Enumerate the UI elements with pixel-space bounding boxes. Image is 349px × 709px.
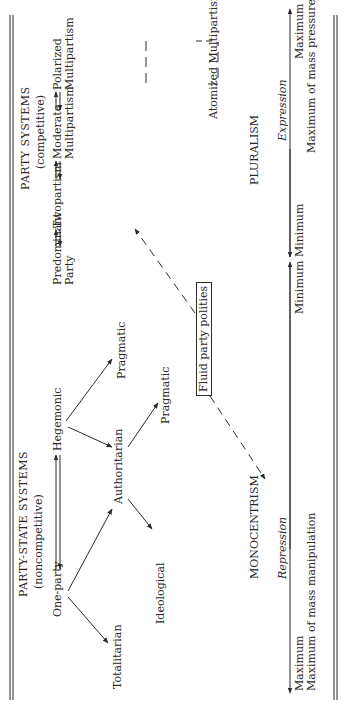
party-state-systems-heading: PARTY-STATE SYSTEMS [18, 451, 30, 597]
node-hegemonic: Hegemonic [52, 388, 64, 451]
node-totalitarian: Totalitarian [112, 624, 124, 689]
node-atomized-multipartism: Atomized Multipartism [208, 0, 220, 119]
scale-repression-min: Minimum [294, 261, 306, 314]
node-ideological: Ideological [155, 563, 167, 624]
noncompetitive-subheading: (noncompetitive) [33, 494, 45, 589]
scale-repression-max-detail: Maximum of mass manipulation [306, 513, 318, 691]
competitive-subheading: (competitive) [35, 95, 47, 169]
party-systems-heading: PARTY SYSTEMS [20, 86, 32, 190]
party-systems-diagram: PARTY-STATE SYSTEMS (noncompetitive) PAR… [0, 0, 349, 709]
node-fluid-party-polities: Fluid party polities [196, 282, 212, 396]
region-pluralism: PLURALISM [249, 115, 261, 185]
node-authoritarian: Authoritarian [113, 429, 125, 504]
region-monocentrism: MONOCENTRISM [249, 475, 261, 579]
scale-expression-max-detail: Maximum of mass pressure [306, 0, 318, 153]
node-moderate-line2: Multipartism [64, 86, 76, 159]
scale-expression-label: Expression [277, 79, 289, 141]
node-twopartism: Twopartism [52, 162, 64, 228]
node-one-party: One-party [52, 561, 64, 617]
node-predominant-line2: Party [64, 256, 76, 285]
node-pragmatic-lower: Pragmatic [160, 367, 172, 424]
scale-expression-min: Minimum [294, 204, 306, 257]
node-pragmatic-upper: Pragmatic [116, 322, 128, 379]
node-polarized-line2: Multipartism [64, 17, 76, 90]
scale-repression-label: Repression [277, 517, 289, 579]
